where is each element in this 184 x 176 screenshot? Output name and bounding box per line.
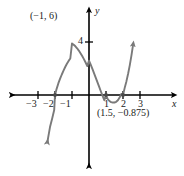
x-tick-label-neg1: −1 <box>60 99 71 109</box>
x-tick-label-3: 3 <box>138 99 143 109</box>
x-tick-label-neg2: −2 <box>43 99 54 109</box>
coordinate-plane <box>0 0 184 176</box>
cubic-curve <box>47 43 133 141</box>
x-axis-label: x <box>172 99 176 109</box>
y-tick-label-4: 4 <box>78 36 83 46</box>
x-tick-label-2: 2 <box>121 99 126 109</box>
x-tick-label-neg3: −3 <box>26 99 37 109</box>
local-max-label: (−1, 6) <box>30 11 57 21</box>
graph-figure: (−1, 6) (1.5, −0.875) x y 4 −3 −2 −1 1 2… <box>0 0 184 176</box>
x-tick-label-1: 1 <box>104 99 109 109</box>
y-axis-label: y <box>95 6 99 16</box>
local-min-label: (1.5, −0.875) <box>97 108 149 118</box>
